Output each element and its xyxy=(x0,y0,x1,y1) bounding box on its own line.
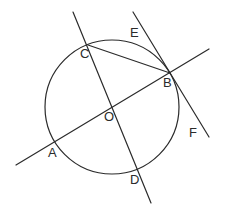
geometry-diagram: A B C D O E F xyxy=(0,0,226,213)
label-O-center: O xyxy=(104,109,114,124)
label-D: D xyxy=(130,172,139,187)
label-B: B xyxy=(163,75,172,90)
label-A: A xyxy=(48,145,57,160)
label-F: F xyxy=(189,125,197,140)
chord-CB xyxy=(88,45,170,73)
label-C: C xyxy=(80,46,89,61)
label-E: E xyxy=(130,25,139,40)
